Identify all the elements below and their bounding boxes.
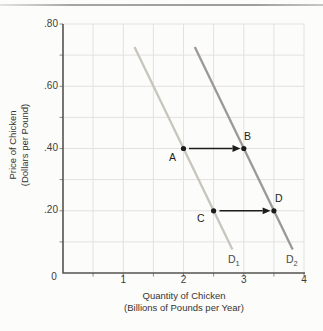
origin-label: 0: [48, 271, 60, 282]
y-tick-80: .80: [34, 18, 58, 29]
x-tick-4: 4: [296, 274, 312, 285]
x-axis-title: Quantity of Chicken (Billions of Pounds …: [64, 290, 304, 314]
point-d-label: D: [275, 192, 283, 204]
point-b-label: B: [244, 130, 251, 142]
point-c-label: C: [197, 212, 205, 224]
curve-d1-subscript: 1: [236, 259, 240, 268]
y-tick-20: .20: [34, 204, 58, 215]
curve-d2-subscript: 2: [294, 259, 298, 268]
point-b-marker: [241, 146, 246, 151]
point-a-label: A: [169, 151, 176, 163]
x-axis-title-line1: Quantity of Chicken: [64, 290, 304, 302]
y-tick-40: .40: [34, 142, 58, 153]
x-tick-2: 2: [176, 274, 192, 285]
curve-d1-letter: D: [228, 253, 236, 265]
x-axis-title-line2: (Billions of Pounds per Year): [64, 302, 304, 314]
point-c-marker: [211, 208, 216, 213]
demand-shift-figure: .80 .60 .40 .20 0 1 2 3 4 A B C D D1 D2 …: [0, 0, 323, 331]
y-axis-title-line1: Price of Chicken: [7, 65, 19, 225]
point-a-marker: [181, 146, 186, 151]
x-tick-1: 1: [115, 274, 131, 285]
curve-d2-label: D2: [286, 253, 298, 268]
shift-arrow-a-to-b: [189, 145, 241, 152]
y-axis-title: Price of Chicken (Dollars per Pound): [7, 65, 37, 225]
x-tick-3: 3: [236, 274, 252, 285]
point-d-marker: [271, 208, 276, 213]
shift-arrow-c-to-d: [220, 207, 271, 214]
curve-d1-label: D1: [228, 253, 240, 268]
y-tick-60: .60: [34, 80, 58, 91]
curve-d2-letter: D: [286, 253, 294, 265]
y-axis-title-line2: (Dollars per Pound): [19, 65, 31, 225]
